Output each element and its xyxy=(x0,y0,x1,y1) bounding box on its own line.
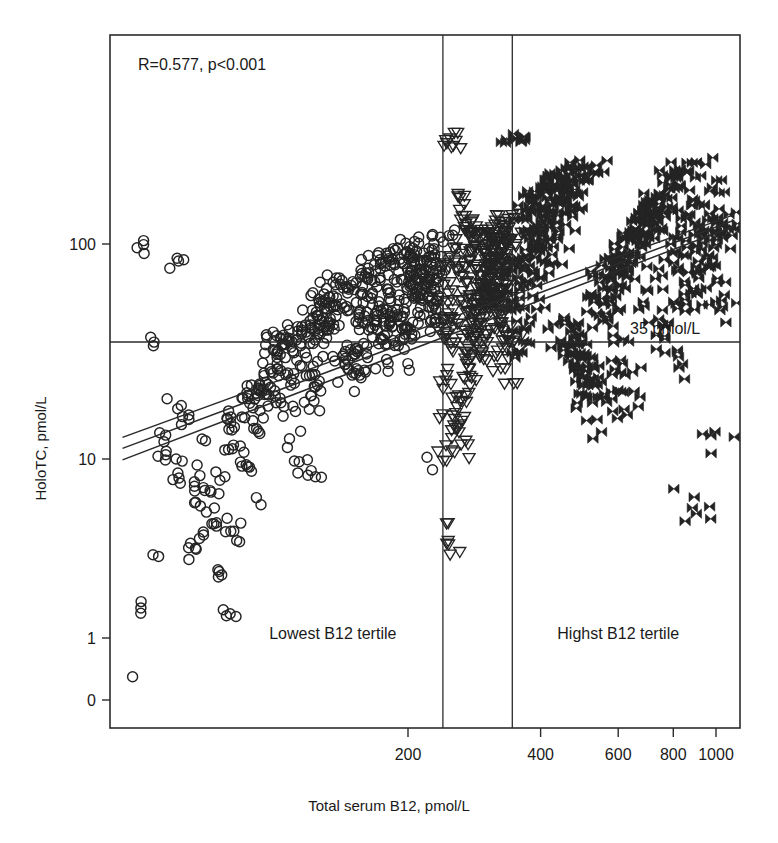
data-point-bowtie xyxy=(581,416,591,425)
data-point-bowtie xyxy=(592,415,602,424)
data-point-bowtie xyxy=(651,345,661,354)
data-point-circle xyxy=(251,493,261,503)
data-point-bowtie xyxy=(714,204,724,213)
plot-frame xyxy=(110,35,740,728)
data-point-circle xyxy=(231,612,241,622)
data-point-circle xyxy=(293,468,303,478)
data-point-circle xyxy=(283,320,293,330)
data-point-bowtie xyxy=(721,318,731,327)
data-point-bowtie xyxy=(729,432,739,441)
data-point-triangle xyxy=(454,548,466,558)
data-point-circle xyxy=(296,426,306,436)
data-point-bowtie xyxy=(570,226,580,235)
data-point-bowtie xyxy=(602,156,612,165)
series-1 xyxy=(128,225,461,682)
data-point-circle xyxy=(428,465,438,475)
data-point-circle xyxy=(422,452,432,462)
data-point-triangle xyxy=(463,454,475,464)
data-point-triangle xyxy=(432,447,444,457)
data-point-bowtie xyxy=(704,502,714,511)
data-point-bowtie xyxy=(567,212,577,221)
data-point-circle xyxy=(403,359,413,369)
data-point-circle xyxy=(304,404,314,414)
x-tick-label: 600 xyxy=(605,746,632,763)
data-point-bowtie xyxy=(588,434,598,443)
data-point-circle xyxy=(128,672,138,682)
data-point-circle xyxy=(192,460,202,470)
data-point-circle xyxy=(278,411,288,421)
data-point-bowtie xyxy=(582,307,592,316)
data-point-bowtie xyxy=(513,201,523,210)
data-point-bowtie xyxy=(546,343,556,352)
data-point-bowtie xyxy=(706,449,716,458)
data-point-bowtie xyxy=(704,300,714,309)
data-point-bowtie xyxy=(635,392,645,401)
y-axis-title: HoloTC, pmol/L xyxy=(32,349,49,549)
correlation-annotation: R=0.577, p<0.001 xyxy=(138,56,266,73)
data-point-circle xyxy=(154,551,164,561)
data-point-circle xyxy=(177,456,187,466)
data-point-circle xyxy=(171,454,181,464)
annotations: R=0.577, p<0.00135 pmol/LLowest B12 tert… xyxy=(138,56,700,642)
x-tick-label: 800 xyxy=(660,746,687,763)
data-point-bowtie xyxy=(627,368,637,377)
reference-line-label: 35 pmol/L xyxy=(630,320,700,337)
data-point-circle xyxy=(222,513,232,523)
data-point-triangle xyxy=(444,550,456,560)
data-point-bowtie xyxy=(657,306,667,315)
reference-lines xyxy=(110,35,740,728)
data-point-bowtie xyxy=(689,493,699,502)
x-tick-label: 1000 xyxy=(698,746,734,763)
lowest-tertile-label: Lowest B12 tertile xyxy=(269,625,396,642)
y-tick-label: 1 xyxy=(87,630,96,647)
data-point-bowtie xyxy=(557,260,567,269)
x-axis-title: Total serum B12, pmol/L xyxy=(0,797,778,814)
series-3 xyxy=(496,129,742,526)
data-point-triangle xyxy=(495,364,507,374)
highest-tertile-label: Highst B12 tertile xyxy=(557,625,679,642)
data-point-bowtie xyxy=(679,374,689,383)
data-point-bowtie xyxy=(679,289,689,298)
data-point-circle xyxy=(298,305,308,315)
data-point-circle xyxy=(236,518,246,528)
data-point-bowtie xyxy=(591,161,601,170)
data-point-bowtie xyxy=(669,484,679,493)
figure-container: 10010102004006008001000R=0.577, p<0.0013… xyxy=(0,0,778,843)
data-point-circle xyxy=(195,471,205,481)
data-point-circle xyxy=(184,554,194,564)
data-point-circle xyxy=(258,358,268,368)
x-tick-label: 400 xyxy=(527,746,554,763)
data-point-bowtie xyxy=(684,186,694,195)
data-point-circle xyxy=(308,288,318,298)
data-point-bowtie xyxy=(553,218,563,227)
x-tick-label: 200 xyxy=(395,746,422,763)
data-point-circle xyxy=(221,611,231,621)
data-point-triangle xyxy=(454,205,466,215)
y-tick-label: 100 xyxy=(69,236,96,253)
data-point-bowtie xyxy=(606,356,616,365)
data-point-circle xyxy=(315,277,325,287)
data-point-bowtie xyxy=(725,244,735,253)
data-point-circle xyxy=(383,366,393,376)
data-point-circle xyxy=(359,339,369,349)
data-point-bowtie xyxy=(633,402,643,411)
data-point-circle xyxy=(315,406,325,416)
data-point-bowtie xyxy=(658,285,668,294)
data-point-circle xyxy=(404,365,414,375)
y-tick-label: 0 xyxy=(87,692,96,709)
data-point-bowtie xyxy=(572,398,582,407)
y-tick-label: 10 xyxy=(78,451,96,468)
data-point-bowtie xyxy=(587,323,597,332)
data-point-bowtie xyxy=(609,338,619,347)
data-point-circle xyxy=(349,387,359,397)
data-point-circle xyxy=(197,434,207,444)
data-point-bowtie xyxy=(540,303,550,312)
data-point-circle xyxy=(256,500,266,510)
data-point-circle xyxy=(162,394,172,404)
data-point-bowtie xyxy=(706,514,716,523)
data-point-bowtie xyxy=(708,153,718,162)
data-point-bowtie xyxy=(642,262,652,271)
data-point-bowtie xyxy=(680,517,690,526)
data-point-circle xyxy=(209,503,219,513)
scatter-plot: 10010102004006008001000R=0.577, p<0.0013… xyxy=(0,0,778,843)
